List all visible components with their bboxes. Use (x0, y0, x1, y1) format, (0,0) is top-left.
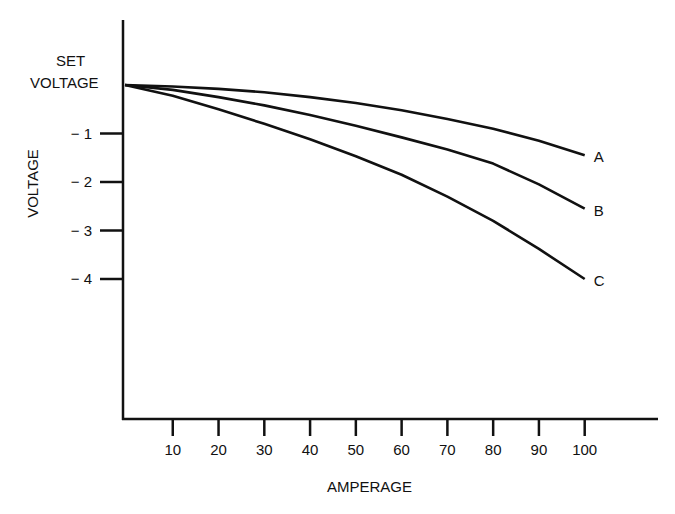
y-top-label-line2: VOLTAGE (30, 74, 99, 91)
x-tick-label: 10 (153, 441, 193, 458)
x-tick-label: 40 (290, 441, 330, 458)
y-tick-label: − 1 (42, 125, 92, 142)
x-tick-label: 80 (473, 441, 513, 458)
x-tick-label: 70 (427, 441, 467, 458)
chart-canvas (0, 0, 675, 514)
series-line-c (125, 85, 585, 279)
series-label-a: A (594, 148, 604, 165)
x-tick-label: 20 (199, 441, 239, 458)
y-tick-label: − 2 (42, 173, 92, 190)
x-axis-label: AMPERAGE (327, 478, 412, 495)
x-tick-label: 60 (382, 441, 422, 458)
x-tick-label: 30 (244, 441, 284, 458)
series-label-c: C (594, 272, 605, 289)
series-lines (125, 85, 585, 279)
y-axis-label: VOLTAGE (24, 144, 41, 224)
y-top-label-line1: SET (56, 52, 85, 69)
x-tick-label: 90 (519, 441, 559, 458)
series-line-a (125, 85, 585, 155)
y-tick-label: − 3 (42, 222, 92, 239)
x-ticks (173, 419, 585, 436)
x-tick-label: 50 (336, 441, 376, 458)
y-ticks (100, 134, 123, 280)
x-tick-label: 100 (565, 441, 605, 458)
series-label-b: B (594, 202, 604, 219)
y-tick-label: − 4 (42, 270, 92, 287)
